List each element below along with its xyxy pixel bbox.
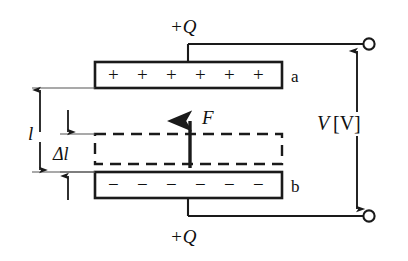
plate-b-charge-symbol: −	[195, 175, 206, 194]
plate-a-charge-symbol: +	[166, 65, 177, 84]
dimension-delta-l-label: Δl	[53, 145, 69, 163]
plate-b-charge-symbol: −	[224, 175, 235, 194]
force-label: F	[202, 108, 214, 127]
plate-b-label: b	[291, 178, 300, 195]
charge-label-top: +Q	[170, 17, 197, 36]
plate-a-charge-symbol: +	[253, 65, 264, 84]
plate-b-charge-symbol: −	[137, 175, 148, 194]
plate-a-charge-symbol: +	[224, 65, 235, 84]
plate-a-charge-symbol: +	[108, 65, 119, 84]
plate-b-charge-symbol: −	[253, 175, 264, 194]
charge-label-bottom: +Q	[170, 227, 197, 246]
plate-b-charge-symbol: −	[166, 175, 177, 194]
plate-a-label: a	[291, 68, 299, 85]
plate-b-charge-symbol: −	[108, 175, 119, 194]
terminal-top-circle	[363, 38, 374, 49]
plate-a-charge-symbol: +	[195, 65, 206, 84]
dimension-l-label: l	[28, 124, 33, 143]
figure-canvas: + + + + + + − − − − − − +Q +Q a b F l Δl…	[0, 0, 408, 261]
voltage-unit-label: [V]	[333, 113, 361, 133]
plate-a-charge-symbol: +	[137, 65, 148, 84]
voltage-symbol-label: V	[317, 113, 329, 133]
terminal-bottom-circle	[363, 210, 374, 221]
